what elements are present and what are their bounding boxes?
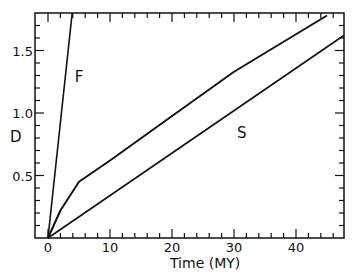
series-curve (48, 16, 327, 239)
x-tick-label: 20 (164, 240, 181, 255)
annotation-S: S (237, 124, 247, 142)
x-tick-label: 40 (288, 240, 305, 255)
y-tick-label: 0.5 (12, 169, 33, 184)
y-axis-label: D (10, 128, 22, 146)
annotation-F: F (75, 68, 84, 86)
series-S (48, 36, 344, 239)
annotations: FS (75, 68, 247, 142)
y-tick-label: 1.5 (12, 44, 33, 59)
x-tick-label: 0 (44, 240, 52, 255)
chart: 010203040 0.51.01.5 FS D Time (MY) (0, 0, 352, 274)
x-tick-label: 10 (102, 240, 119, 255)
plot-frame (35, 13, 344, 238)
y-tick-label: 1.0 (12, 106, 33, 121)
y-axis-ticks: 0.51.01.5 (12, 26, 344, 226)
x-axis-label: Time (MY) (169, 255, 240, 271)
x-axis-ticks: 010203040 (44, 13, 333, 255)
series-lines (48, 13, 344, 238)
x-tick-label: 30 (226, 240, 243, 255)
series-F (48, 13, 72, 238)
